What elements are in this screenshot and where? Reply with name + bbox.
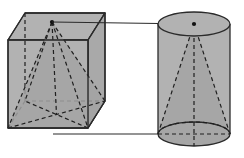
geometry-figure-container: Pyramid inscribed in a prism and cone in… <box>0 0 244 158</box>
geometry-figure-svg <box>0 0 244 158</box>
prism-group <box>8 13 105 128</box>
cylinder-group <box>158 12 230 146</box>
cone-apex-dot <box>192 22 196 26</box>
